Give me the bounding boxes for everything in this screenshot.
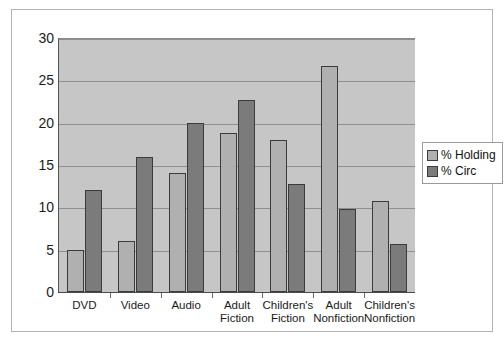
bar-circ (238, 100, 255, 292)
legend-swatch-circ-icon (427, 166, 438, 177)
legend-swatch-holding-icon (427, 150, 438, 161)
y-axis-tick-label: 10 (20, 202, 54, 212)
bar-holding (118, 241, 135, 292)
legend-item: % Holding (427, 147, 496, 163)
x-axis-tick (212, 293, 213, 298)
bar-holding (220, 133, 237, 292)
bar-circ (187, 123, 204, 292)
x-axis-category-label: Children's Nonfiction (356, 299, 423, 325)
bar-holding (67, 250, 84, 292)
bar-circ (85, 190, 102, 292)
legend-label: % Holding (441, 148, 496, 162)
legend-label: % Circ (441, 164, 476, 178)
chart-frame: 051015202530 % Holding% Circ DVDVideoAud… (11, 9, 493, 332)
x-axis-tick (364, 293, 365, 298)
y-axis-tick-label: 30 (20, 33, 54, 43)
x-axis-tick (110, 293, 111, 298)
y-axis-tick-label: 20 (20, 118, 54, 128)
bar-holding (372, 201, 389, 292)
x-axis-tick (313, 293, 314, 298)
bar-holding (321, 66, 338, 292)
bar-circ (288, 184, 305, 292)
bar-circ (339, 209, 356, 292)
y-axis-tick-label: 15 (20, 160, 54, 170)
chart-legend: % Holding% Circ (422, 142, 503, 184)
bar-holding (169, 173, 186, 292)
x-axis-tick (262, 293, 263, 298)
y-axis-tick-label: 0 (20, 287, 54, 297)
y-axis: 051015202530 (12, 10, 54, 333)
x-axis-tick (161, 293, 162, 298)
bar-circ (390, 244, 407, 292)
bar-circ (136, 157, 153, 292)
bar-holding (270, 140, 287, 292)
x-axis-line (58, 292, 415, 293)
bars-layer (59, 38, 415, 292)
y-axis-tick-label: 5 (20, 245, 54, 255)
legend-item: % Circ (427, 163, 496, 179)
y-axis-tick-label: 25 (20, 75, 54, 85)
